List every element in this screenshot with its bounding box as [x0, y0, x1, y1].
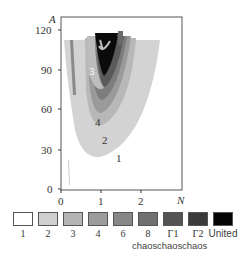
legend-swatch: [13, 212, 33, 226]
legend-item-8: 8: [137, 212, 159, 239]
region-label-2: 2: [102, 135, 108, 146]
legend-label: 1: [21, 229, 26, 239]
region-label-1: 1: [116, 153, 122, 164]
legend-label: 4: [96, 229, 101, 239]
region-label-3: 3: [89, 66, 95, 77]
legend-swatch: [138, 212, 158, 226]
legend-sublabel-gamma1: chaos: [132, 240, 155, 251]
legend-swatch: [63, 212, 83, 226]
legend-label: 6: [121, 229, 126, 239]
legend-swatch: [213, 212, 233, 226]
x-tick-0: 0: [58, 196, 64, 207]
legend-item-2: 2: [37, 212, 59, 239]
legend-item-6: 6: [112, 212, 134, 239]
legend-label: Γ2: [193, 229, 204, 239]
legend-sublabels: chaos chaos chaos: [132, 240, 205, 251]
legend-item-gamma2-chaos: Γ2: [187, 212, 209, 239]
legend-swatch: [163, 212, 183, 226]
legend-sublabel-gamma2: chaos: [157, 240, 180, 251]
legend-item-4: 4: [87, 212, 109, 239]
legend-item-3: 3: [62, 212, 84, 239]
legend-swatch: [38, 212, 58, 226]
region-label-4: 4: [95, 117, 101, 128]
legend-label: 8: [146, 229, 151, 239]
legend-sublabel-united: chaos: [182, 240, 205, 251]
legend-swatch: [88, 212, 108, 226]
y-tick-30: 30: [41, 145, 52, 156]
legend-swatch: [188, 212, 208, 226]
x-axis-label: N: [177, 195, 184, 206]
legend-label: 2: [46, 229, 51, 239]
y-tick-0: 0: [47, 184, 53, 195]
legend-label: Γ1: [168, 229, 179, 239]
y-tick-120: 120: [35, 25, 52, 36]
legend-label: United: [209, 229, 238, 239]
x-tick-1: 1: [98, 196, 104, 207]
legend-label: 3: [71, 229, 76, 239]
x-tick-2: 2: [138, 196, 144, 207]
legend-item-united-chaos: United: [212, 212, 234, 239]
legend-item-1: 1: [12, 212, 34, 239]
legend-swatch: [113, 212, 133, 226]
y-tick-90: 90: [41, 65, 52, 76]
y-tick-60: 60: [41, 104, 52, 115]
legend: 1 2 3 4 6 8 Γ1 Γ2 United: [12, 212, 237, 239]
legend-item-gamma1-chaos: Γ1: [162, 212, 184, 239]
left-stripe-thin: [68, 160, 70, 185]
region-gamma-stripe: [118, 31, 123, 45]
